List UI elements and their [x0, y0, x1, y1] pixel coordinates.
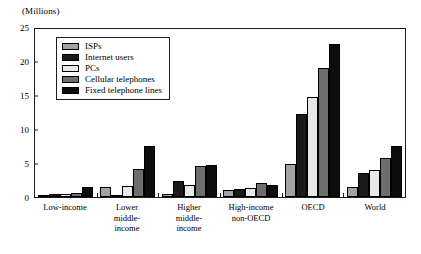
x-axis-label: Lower middle- income — [96, 202, 158, 234]
y-axis-tick-label: 5 — [0, 159, 34, 169]
y-axis-tick-label: 25 — [0, 23, 34, 33]
legend-swatch-icon — [62, 43, 79, 50]
bar — [206, 165, 217, 197]
bar — [267, 185, 278, 197]
legend-swatch-icon — [62, 87, 79, 94]
bar — [100, 187, 111, 197]
legend-label: PCs — [85, 64, 100, 73]
bar — [256, 183, 267, 197]
legend-label: Cellular telephones — [85, 75, 155, 84]
x-axis-tick-mark — [343, 193, 344, 197]
bar — [296, 114, 307, 197]
bar — [380, 158, 391, 197]
legend-item: PCs — [62, 63, 162, 74]
x-axis-tick-mark — [158, 193, 159, 197]
x-axis-label: Low-income — [34, 202, 96, 234]
bar — [122, 186, 133, 197]
x-axis-label: World — [344, 202, 406, 234]
bar-group — [282, 29, 344, 197]
bar — [318, 68, 329, 197]
bar-group — [343, 29, 405, 197]
chart-legend: ISPsInternet usersPCsCellular telephones… — [56, 37, 170, 100]
bar-group — [220, 29, 282, 197]
bar — [347, 187, 358, 197]
legend-swatch-icon — [62, 65, 79, 72]
legend-item: Internet users — [62, 52, 162, 63]
bar — [49, 194, 60, 197]
x-axis-tick-mark — [97, 193, 98, 197]
bar — [234, 189, 245, 197]
bar — [162, 194, 173, 197]
bar — [82, 187, 93, 197]
legend-item: Cellular telephones — [62, 74, 162, 85]
bar — [38, 195, 49, 197]
y-axis-unit-label: (Millions) — [22, 6, 60, 16]
x-axis-labels: Low-incomeLower middle- incomeHigher mid… — [34, 202, 406, 234]
legend-label: Internet users — [85, 53, 134, 62]
bar — [144, 146, 155, 197]
legend-label: ISPs — [85, 42, 102, 51]
y-axis-tick-mark — [34, 62, 38, 63]
bar — [133, 169, 144, 197]
bar — [307, 97, 318, 197]
x-axis-label: High-income non-OECD — [220, 202, 282, 234]
x-axis-label: Higher middle- income — [158, 202, 220, 234]
bar — [60, 194, 71, 197]
x-axis-tick-mark — [282, 193, 283, 197]
bar — [358, 173, 369, 197]
bar — [111, 195, 122, 197]
x-axis-label: OECD — [282, 202, 344, 234]
bar — [245, 188, 256, 197]
bar — [195, 166, 206, 197]
legend-label: Fixed telephone lines — [85, 86, 162, 95]
bar — [391, 146, 402, 197]
legend-item: Fixed telephone lines — [62, 85, 162, 96]
bar-chart: (Millions) 0510152025 Low-incomeLower mi… — [0, 0, 421, 254]
y-axis-tick-mark — [34, 164, 38, 165]
y-axis-tick-label: 0 — [0, 193, 34, 203]
legend-item: ISPs — [62, 41, 162, 52]
legend-swatch-icon — [62, 54, 79, 61]
bar — [329, 44, 340, 197]
x-axis-tick-mark — [220, 193, 221, 197]
y-axis-tick-label: 20 — [0, 57, 34, 67]
bar — [71, 193, 82, 197]
bar — [184, 185, 195, 197]
bar — [173, 181, 184, 197]
y-axis-tick-label: 15 — [0, 91, 34, 101]
bar — [285, 164, 296, 197]
bar — [223, 190, 234, 197]
bar — [369, 170, 380, 197]
y-axis-tick-mark — [34, 130, 38, 131]
legend-swatch-icon — [62, 76, 79, 83]
y-axis-tick-label: 10 — [0, 125, 34, 135]
y-axis-tick-mark — [34, 96, 38, 97]
